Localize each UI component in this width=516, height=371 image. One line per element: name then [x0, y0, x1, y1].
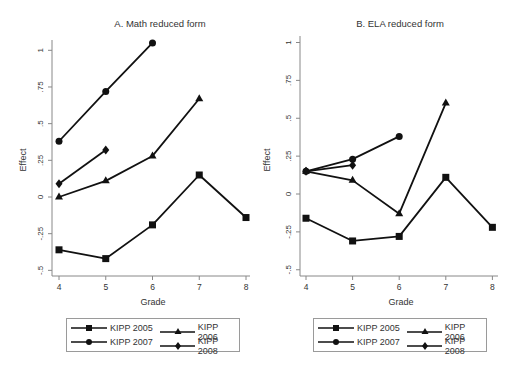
- x-tick-label: 4: [57, 282, 62, 292]
- circle-icon: [71, 336, 107, 348]
- legend-item-kipp-2005: KIPP 2005: [318, 322, 400, 334]
- legend-ela: KIPP 2005KIPP 2006KIPP 2007KIPP 2008: [313, 318, 487, 352]
- x-tick-label: 5: [103, 282, 108, 292]
- x-tick-label: 7: [197, 282, 202, 292]
- diamond-icon: [407, 340, 442, 352]
- legend-label: KIPP 2005: [110, 323, 153, 333]
- square-marker: [349, 237, 356, 244]
- legend-item-kipp-2007: KIPP 2007: [318, 336, 400, 348]
- y-tick-label: 0: [36, 194, 45, 199]
- legend-label: KIPP 2008: [198, 336, 239, 356]
- series-kipp-2005: [56, 171, 250, 262]
- series-line: [59, 99, 199, 197]
- square-marker: [56, 246, 63, 253]
- y-tick-label: .5: [284, 114, 293, 121]
- diamond-marker: [56, 179, 63, 188]
- y-tick-label: .75: [36, 81, 45, 93]
- square-marker: [303, 215, 310, 222]
- square-icon: [71, 322, 107, 334]
- y-tick-label: -.5: [36, 265, 45, 275]
- diamond-icon: [160, 340, 195, 352]
- legend-item-kipp-2007: KIPP 2007: [71, 336, 153, 348]
- chart-canvas: A. Math reduced form-.5-.250.25.5.751456…: [0, 0, 516, 371]
- legend-item-kipp-2008: KIPP 2008: [160, 336, 239, 356]
- ela-chart: B. ELA reduced form-.5-.250.25.5.7514567…: [262, 18, 498, 307]
- square-marker: [243, 214, 250, 221]
- series-line: [306, 103, 446, 214]
- triangle-marker: [175, 328, 182, 334]
- diamond-marker: [102, 146, 109, 155]
- y-tick-label: .25: [36, 154, 45, 166]
- diamond-marker: [303, 167, 310, 176]
- y-tick-label: -.25: [284, 224, 293, 238]
- diamond-marker: [175, 342, 181, 350]
- x-tick-label: 5: [350, 282, 355, 292]
- diamond-marker: [349, 161, 356, 170]
- series-line: [59, 150, 106, 184]
- square-marker: [196, 171, 203, 178]
- y-tick-label: -.5: [284, 265, 293, 275]
- x-axis-label: Grade: [140, 297, 165, 307]
- y-axis-label: Effect: [18, 148, 28, 171]
- y-tick-label: .25: [284, 150, 293, 162]
- x-tick-label: 4: [304, 282, 309, 292]
- math-chart: A. Math reduced form-.5-.250.25.5.751456…: [18, 18, 250, 307]
- circle-marker: [56, 138, 63, 145]
- diamond-marker: [422, 342, 428, 350]
- square-marker: [102, 255, 109, 262]
- square-marker: [86, 325, 92, 331]
- chart-title: A. Math reduced form: [114, 18, 205, 29]
- circle-icon: [318, 336, 354, 348]
- x-tick-label: 6: [150, 282, 155, 292]
- series-kipp-2008: [303, 161, 357, 176]
- circle-marker: [102, 88, 109, 95]
- square-marker: [442, 174, 449, 181]
- legend-label: KIPP 2007: [110, 337, 153, 347]
- circle-marker: [396, 133, 403, 140]
- series-kipp-2007: [56, 39, 157, 144]
- legend-label: KIPP 2007: [357, 337, 400, 347]
- circle-marker: [86, 339, 92, 345]
- y-tick-label: .5: [36, 120, 45, 127]
- y-axis-label: Effect: [262, 148, 272, 171]
- x-tick-label: 6: [397, 282, 402, 292]
- circle-marker: [333, 339, 339, 345]
- x-tick-label: 7: [443, 282, 448, 292]
- y-tick-label: 0: [284, 191, 293, 196]
- legend-math: KIPP 2005KIPP 2006KIPP 2007KIPP 2008: [66, 318, 240, 352]
- x-tick-label: 8: [490, 282, 495, 292]
- legend-item-kipp-2005: KIPP 2005: [71, 322, 153, 334]
- square-marker: [333, 325, 339, 331]
- square-icon: [318, 322, 354, 334]
- legend-item-kipp-2008: KIPP 2008: [407, 336, 486, 356]
- legend-label: KIPP 2008: [445, 336, 486, 356]
- series-kipp-2006: [55, 94, 203, 199]
- series-kipp-2005: [303, 174, 496, 245]
- triangle-marker: [422, 328, 429, 334]
- triangle-marker: [442, 99, 450, 106]
- square-marker: [489, 224, 496, 231]
- y-tick-label: 1: [284, 40, 293, 45]
- chart-title: B. ELA reduced form: [356, 18, 444, 29]
- y-tick-label: 1: [36, 48, 45, 53]
- square-marker: [396, 233, 403, 240]
- series-line: [306, 177, 492, 241]
- series-kipp-2006: [302, 99, 450, 217]
- square-marker: [149, 221, 156, 228]
- y-tick-label: .75: [284, 74, 293, 86]
- y-tick-label: -.25: [36, 226, 45, 240]
- triangle-marker: [195, 94, 203, 101]
- legend-label: KIPP 2005: [357, 323, 400, 333]
- circle-marker: [149, 39, 156, 46]
- x-tick-label: 8: [244, 282, 249, 292]
- x-axis-label: Grade: [388, 297, 413, 307]
